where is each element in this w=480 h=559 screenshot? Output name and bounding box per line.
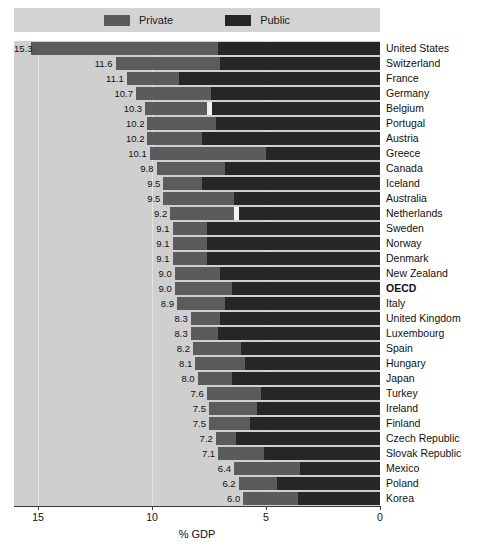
bar-segment-private[interactable] — [198, 372, 232, 385]
category-label: United Kingdom — [386, 312, 461, 325]
stacked-bar[interactable] — [127, 72, 380, 85]
stacked-bar[interactable] — [243, 492, 380, 505]
stacked-bar[interactable] — [173, 222, 380, 235]
stacked-bar[interactable] — [193, 342, 380, 355]
bar-segment-private[interactable] — [209, 417, 250, 430]
bar-segment-public[interactable] — [264, 447, 380, 460]
bar-segment-public[interactable] — [225, 297, 380, 310]
bar-segment-private[interactable] — [31, 42, 218, 55]
stacked-bar[interactable] — [170, 207, 380, 220]
bar-segment-private[interactable] — [136, 87, 211, 100]
bar-segment-private[interactable] — [209, 402, 257, 415]
stacked-bar[interactable] — [218, 447, 380, 460]
bar-segment-private[interactable] — [177, 297, 225, 310]
bar-segment-public[interactable] — [241, 342, 380, 355]
bar-segment-private[interactable] — [191, 312, 221, 325]
stacked-bar[interactable] — [198, 372, 380, 385]
bar-segment-public[interactable] — [236, 432, 380, 445]
stacked-bar[interactable] — [157, 162, 380, 175]
bar-segment-public[interactable] — [277, 477, 380, 490]
stacked-bar[interactable] — [147, 132, 380, 145]
stacked-bar[interactable] — [150, 147, 380, 160]
bar-segment-private[interactable] — [173, 222, 207, 235]
bar-segment-public[interactable] — [257, 402, 380, 415]
bar-segment-public[interactable] — [202, 177, 380, 190]
bar-value-label: 9.5 — [14, 192, 160, 205]
bar-segment-private[interactable] — [163, 177, 202, 190]
bar-segment-private[interactable] — [145, 102, 207, 115]
stacked-bar[interactable] — [239, 477, 380, 490]
bar-segment-private[interactable] — [216, 432, 237, 445]
bar-segment-private[interactable] — [170, 207, 234, 220]
stacked-bar[interactable] — [31, 42, 380, 55]
bar-segment-public[interactable] — [212, 102, 380, 115]
bar-segment-public[interactable] — [232, 372, 380, 385]
bar-segment-private[interactable] — [234, 462, 300, 475]
bar-segment-private[interactable] — [157, 162, 225, 175]
bar-segment-private[interactable] — [147, 132, 202, 145]
bar-segment-public[interactable] — [245, 357, 380, 370]
stacked-bar[interactable] — [175, 267, 380, 280]
stacked-bar[interactable] — [234, 462, 380, 475]
bar-segment-private[interactable] — [147, 117, 215, 130]
bar-segment-private[interactable] — [239, 477, 278, 490]
bar-value-label: 11.1 — [14, 72, 124, 85]
bar-segment-private[interactable] — [163, 192, 234, 205]
bar-segment-public[interactable] — [207, 237, 380, 250]
stacked-bar[interactable] — [216, 432, 380, 445]
stacked-bar[interactable] — [145, 102, 380, 115]
bar-segment-private[interactable] — [127, 72, 179, 85]
bar-segment-public[interactable] — [234, 192, 380, 205]
bar-value-label: 9.0 — [14, 267, 172, 280]
bar-segment-public[interactable] — [225, 162, 380, 175]
bar-segment-private[interactable] — [116, 57, 221, 70]
bar-segment-public[interactable] — [239, 207, 380, 220]
stacked-bar[interactable] — [136, 87, 380, 100]
bar-segment-private[interactable] — [193, 342, 241, 355]
bar-segment-public[interactable] — [207, 252, 380, 265]
bar-segment-private[interactable] — [243, 492, 298, 505]
legend-swatch-public-icon — [225, 15, 251, 26]
bar-segment-public[interactable] — [211, 87, 380, 100]
bar-segment-public[interactable] — [250, 417, 380, 430]
stacked-bar[interactable] — [191, 312, 380, 325]
stacked-bar[interactable] — [163, 192, 380, 205]
stacked-bar[interactable] — [173, 252, 380, 265]
bar-segment-public[interactable] — [207, 222, 380, 235]
stacked-bar[interactable] — [173, 237, 380, 250]
bar-segment-public[interactable] — [216, 117, 380, 130]
stacked-bar[interactable] — [177, 297, 380, 310]
stacked-bar[interactable] — [195, 357, 380, 370]
bar-segment-public[interactable] — [220, 57, 380, 70]
stacked-bar[interactable] — [191, 327, 380, 340]
bar-value-label: 9.1 — [14, 252, 170, 265]
bar-segment-private[interactable] — [175, 267, 221, 280]
bar-segment-private[interactable] — [173, 237, 207, 250]
bar-segment-private[interactable] — [218, 447, 264, 460]
bar-segment-public[interactable] — [218, 327, 380, 340]
bar-segment-private[interactable] — [195, 357, 245, 370]
bar-segment-public[interactable] — [261, 387, 380, 400]
bar-segment-private[interactable] — [207, 387, 262, 400]
bar-row: 6.4 — [14, 462, 380, 475]
bar-segment-public[interactable] — [218, 42, 380, 55]
bar-segment-private[interactable] — [175, 282, 232, 295]
bar-segment-public[interactable] — [220, 267, 380, 280]
stacked-bar[interactable] — [163, 177, 380, 190]
bar-segment-public[interactable] — [232, 282, 380, 295]
bar-segment-public[interactable] — [300, 462, 380, 475]
bar-segment-public[interactable] — [266, 147, 380, 160]
stacked-bar[interactable] — [207, 387, 380, 400]
stacked-bar[interactable] — [209, 417, 380, 430]
bar-segment-public[interactable] — [220, 312, 380, 325]
bar-segment-public[interactable] — [298, 492, 380, 505]
bar-segment-public[interactable] — [179, 72, 380, 85]
stacked-bar[interactable] — [209, 402, 380, 415]
stacked-bar[interactable] — [147, 117, 380, 130]
stacked-bar[interactable] — [175, 282, 380, 295]
bar-segment-private[interactable] — [173, 252, 207, 265]
bar-segment-private[interactable] — [150, 147, 266, 160]
bar-segment-public[interactable] — [202, 132, 380, 145]
stacked-bar[interactable] — [116, 57, 380, 70]
bar-segment-private[interactable] — [191, 327, 218, 340]
